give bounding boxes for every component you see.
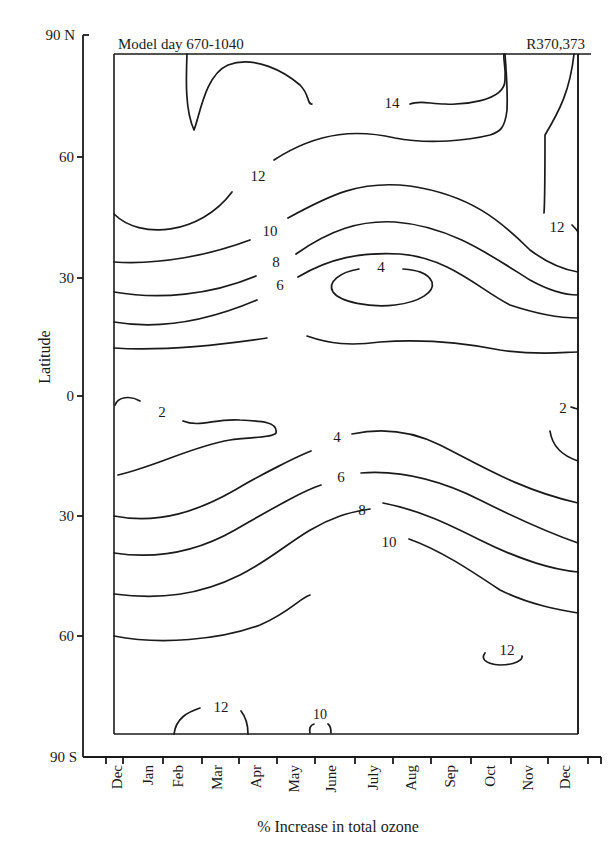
x-tick-mar: Mar: [209, 765, 225, 790]
contour-4-south-west: [118, 420, 276, 475]
contour-label-12-north: 12: [251, 168, 266, 184]
y-axis: 90 N 60 30 0 30 60 90 S Latitude: [36, 27, 89, 765]
contour-12-west: [114, 192, 232, 230]
contour-10-south-west: [114, 509, 370, 596]
contour-2-east: [550, 431, 578, 461]
contour-4-tropics-east: [307, 336, 578, 353]
contour-10-south-east: [409, 539, 578, 613]
x-tick-june: June: [323, 765, 339, 793]
contour-6-west: [114, 300, 257, 325]
contour-8-south-west: [114, 485, 321, 555]
contour-label-2-east: 2: [559, 400, 567, 416]
contour-12-bottom-east: [241, 711, 248, 734]
x-tick-july: July: [365, 765, 381, 791]
plot-frame: [114, 54, 591, 734]
y-tick-60n: 60: [59, 149, 74, 165]
contour-12-dec-north: [544, 54, 574, 213]
x-axis-label: % Increase in total ozone: [257, 818, 419, 835]
contour-2-west: [115, 398, 140, 405]
run-id-label: R370,373: [526, 36, 585, 52]
contour-label-12-bottom: 12: [214, 699, 229, 715]
y-tick-30s: 30: [59, 508, 74, 524]
ozone-contour-chart: Model day 670-1040 R370,373 90 N 60 30 0…: [0, 0, 612, 851]
contour-6-south-west: [114, 451, 311, 519]
chart-title: Model day 670-1040: [118, 36, 244, 52]
y-tick-90n: 90 N: [45, 27, 75, 43]
x-tick-oct: Oct: [482, 764, 498, 786]
contour-10-bottom-east: [328, 724, 331, 733]
contour-label-12-dec: 12: [550, 219, 565, 235]
contour-8-east: [296, 222, 578, 295]
y-axis-label: Latitude: [36, 330, 53, 383]
contour-8-west: [114, 276, 256, 296]
contour-10-polar-west: [114, 595, 310, 640]
contour-label-4-north: 4: [377, 259, 385, 275]
x-axis: Dec Jan Feb Mar Apr May June July Aug Se…: [83, 757, 601, 835]
x-tick-dec: Dec: [109, 765, 125, 789]
contour-label-12-oct: 12: [500, 642, 515, 658]
contour-label-10-south: 10: [382, 534, 397, 550]
contour-label-10-north: 10: [263, 223, 278, 239]
contour-label-2-west: 2: [158, 404, 166, 420]
contour-6-east: [298, 254, 578, 318]
y-tick-90s: 90 S: [50, 749, 77, 765]
contour-label-6-south: 6: [337, 469, 345, 485]
x-tick-sep: Sep: [442, 765, 458, 788]
x-tick-dec-end: Dec: [557, 765, 573, 789]
y-tick-0: 0: [67, 388, 75, 404]
contour-12-bottom-west: [174, 708, 200, 734]
contour-12-dec-tick: [572, 225, 578, 232]
contour-label-14: 14: [385, 95, 401, 111]
contour-2-east-tick: [571, 407, 578, 409]
contour-label-8-south: 8: [358, 502, 366, 518]
contour-10-bottom-west: [310, 724, 314, 733]
contour-8-south-east: [383, 503, 578, 572]
contour-10-west: [114, 240, 250, 263]
x-tick-apr: Apr: [248, 765, 264, 788]
contour-14-west: [186, 54, 312, 130]
y-tick-30n: 30: [59, 270, 74, 286]
contour-14-east: [410, 54, 505, 104]
contour-4-tropics-west: [114, 338, 267, 349]
contour-label-8-north: 8: [272, 254, 280, 270]
contour-6-south-east: [361, 472, 578, 543]
contour-label-10-bottom: 10: [313, 707, 327, 722]
x-tick-may: May: [286, 765, 302, 793]
x-tick-jan: Jan: [140, 765, 156, 785]
y-tick-60s: 60: [59, 628, 74, 644]
x-tick-feb: Feb: [170, 765, 186, 788]
x-tick-nov: Nov: [520, 765, 536, 791]
contour-lines: [114, 54, 578, 734]
contour-label-4-south: 4: [333, 429, 341, 445]
contour-labels: 14 12 10 8 6 4 12 2 2 4 6 8 10 12 12 10: [158, 95, 567, 722]
x-tick-aug: Aug: [403, 765, 419, 791]
contour-label-6-north: 6: [276, 277, 284, 293]
